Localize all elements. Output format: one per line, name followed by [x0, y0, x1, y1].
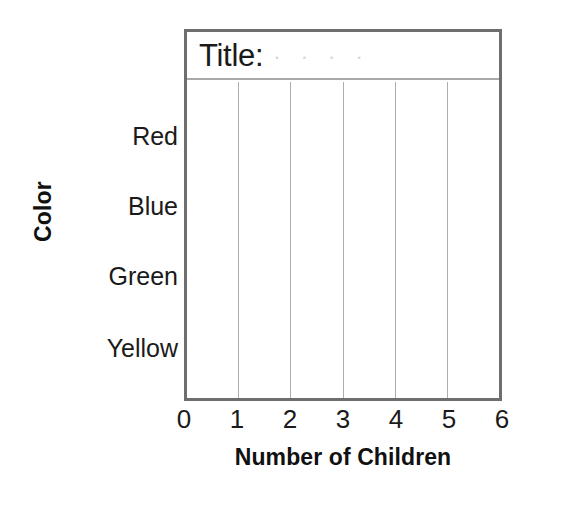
plot-area[interactable] — [187, 82, 499, 398]
grid-column — [187, 82, 239, 398]
x-tick-label-0: 0 — [164, 406, 204, 432]
grid-column — [448, 82, 499, 398]
grid-column — [396, 82, 448, 398]
x-tick-label-1: 1 — [217, 406, 257, 432]
y-tick-label-yellow: Yellow — [56, 336, 178, 361]
x-axis-title: Number of Children — [153, 444, 533, 471]
y-axis-title: Color — [30, 152, 57, 272]
grid-column — [344, 82, 396, 398]
y-tick-label-green: Green — [56, 264, 178, 289]
x-tick-label-2: 2 — [270, 406, 310, 432]
x-tick-label-5: 5 — [429, 406, 469, 432]
x-tick-label-6: 6 — [482, 406, 522, 432]
x-tick-label-3: 3 — [323, 406, 363, 432]
x-axis-tick-labels: 0 1 2 3 4 5 6 — [184, 406, 502, 438]
chart-title-field[interactable]: Title: · · · · — [187, 32, 499, 80]
y-axis-tick-labels: Red Blue Green Yellow — [56, 100, 178, 370]
grid-column — [239, 82, 291, 398]
y-tick-label-red: Red — [56, 124, 178, 149]
x-tick-label-4: 4 — [376, 406, 416, 432]
y-tick-label-blue: Blue — [56, 194, 178, 219]
title-blank-line: · · · · — [273, 44, 370, 70]
grid-column — [291, 82, 343, 398]
bar-chart-worksheet: Title: · · · · Color Red Blue Green Yell… — [0, 0, 569, 508]
chart-plot-frame: Title: · · · · — [184, 29, 502, 401]
chart-title-label: Title: — [199, 40, 263, 71]
